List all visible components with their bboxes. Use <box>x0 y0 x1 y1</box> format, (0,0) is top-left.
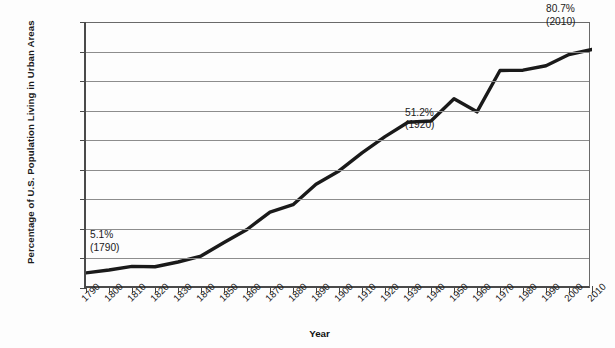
series-line <box>86 49 592 272</box>
y-tick-mark-50% <box>80 140 86 141</box>
y-tick-mark-10% <box>80 258 86 259</box>
start-annotation: 5.1% (1790) <box>90 229 119 254</box>
gridline-40% <box>86 170 589 171</box>
data-line-svg <box>86 22 592 288</box>
y-axis-title: Percentage of U.S. Population Living in … <box>25 17 37 267</box>
gridline-80% <box>86 52 589 53</box>
y-tick-mark-60% <box>80 111 86 112</box>
y-tick-mark-40% <box>80 170 86 171</box>
x-axis-title: Year <box>0 328 615 339</box>
gridline-10% <box>86 258 589 259</box>
start-annotation-value: 5.1% <box>90 229 119 242</box>
gridline-20% <box>86 229 589 230</box>
plot-area: 0%10%20%30%40%50%60%70%80%90% <box>84 22 590 288</box>
gridline-90% <box>86 22 589 23</box>
start-annotation-year: (1790) <box>90 242 119 255</box>
y-tick-mark-90% <box>80 22 86 23</box>
y-tick-mark-80% <box>80 52 86 53</box>
urbanization-line-chart: Percentage of U.S. Population Living in … <box>0 0 615 348</box>
midpoint-annotation: 51.2% (1920) <box>405 107 434 132</box>
end-annotation-value: 80.7% <box>546 3 575 16</box>
midpoint-annotation-value: 51.2% <box>405 107 434 120</box>
gridline-50% <box>86 140 589 141</box>
gridline-60% <box>86 111 589 112</box>
y-tick-mark-30% <box>80 199 86 200</box>
x-tick-label-1790: 1790 <box>79 281 102 304</box>
midpoint-annotation-year: (1920) <box>405 119 434 132</box>
end-annotation: 80.7% (2010) <box>546 3 575 28</box>
gridline-30% <box>86 199 589 200</box>
y-tick-mark-20% <box>80 229 86 230</box>
y-tick-mark-70% <box>80 81 86 82</box>
end-annotation-year: (2010) <box>546 16 575 29</box>
gridline-70% <box>86 81 589 82</box>
